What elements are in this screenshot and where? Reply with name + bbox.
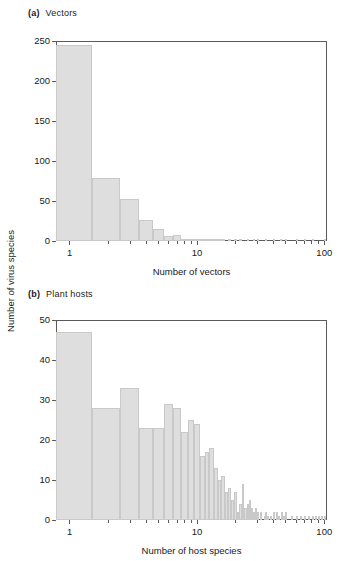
bar	[267, 516, 269, 520]
bar	[280, 239, 282, 241]
x-tick-mark	[158, 520, 159, 523]
x-tick-mark	[108, 241, 109, 244]
x-tick-label: 10	[192, 247, 203, 258]
x-tick-mark	[304, 520, 305, 523]
panel-a-title: (a)Vectors	[28, 8, 77, 18]
bar	[139, 220, 153, 241]
panel-a-x-axis-label: Number of vectors	[56, 266, 327, 277]
x-tick-mark	[235, 520, 236, 523]
x-tick-mark	[273, 520, 274, 523]
x-tick-mark	[197, 241, 198, 245]
x-tick-label: 100	[316, 526, 332, 537]
y-tick-mark	[52, 241, 56, 242]
x-tick-mark	[69, 241, 70, 245]
bar	[300, 516, 302, 520]
x-tick-mark	[296, 241, 297, 244]
y-tick-mark	[52, 41, 56, 42]
bar	[120, 199, 139, 241]
x-tick-mark	[257, 241, 258, 244]
bar	[247, 239, 249, 241]
bar	[270, 516, 272, 520]
y-tick-label: 20	[39, 434, 50, 445]
x-tick-mark	[285, 241, 286, 244]
x-tick-mark	[318, 241, 319, 244]
x-tick-mark	[158, 241, 159, 244]
panel-b-plot-area: 01020304050 110100	[56, 320, 327, 520]
x-tick-mark	[177, 520, 178, 523]
y-tick-label: 0	[45, 235, 50, 246]
panel-a-title-text: Vectors	[46, 8, 77, 18]
y-tick-label: 10	[39, 474, 50, 485]
y-tick-mark	[52, 81, 56, 82]
x-tick-label: 1	[67, 247, 72, 258]
y-tick-mark	[52, 201, 56, 202]
y-tick-label: 40	[39, 354, 50, 365]
x-tick-mark	[108, 520, 109, 523]
x-tick-mark	[318, 520, 319, 523]
y-tick-mark	[52, 480, 56, 481]
y-tick-label: 250	[34, 35, 50, 46]
x-tick-mark	[130, 241, 131, 244]
panel-b-x-axis-label: Number of host species	[56, 545, 327, 556]
bar	[221, 239, 224, 241]
y-tick-mark	[52, 520, 56, 521]
panel-b-tag: (b)	[28, 289, 40, 299]
shared-y-axis-label: Number of virus species	[0, 0, 21, 561]
x-tick-mark	[184, 520, 185, 523]
y-tick-mark	[52, 161, 56, 162]
panel-b-title: (b)Plant hosts	[28, 289, 93, 299]
bar	[285, 512, 287, 520]
y-tick-mark	[52, 360, 56, 361]
x-tick-mark	[235, 241, 236, 244]
x-tick-mark	[184, 241, 185, 244]
bar	[228, 239, 231, 241]
x-tick-mark	[296, 520, 297, 523]
bar	[181, 432, 188, 520]
bar	[139, 428, 153, 520]
y-tick-label: 50	[39, 314, 50, 325]
x-tick-label: 10	[192, 526, 203, 537]
y-tick-mark	[52, 121, 56, 122]
x-tick-mark	[168, 520, 169, 523]
x-tick-mark	[197, 520, 198, 524]
panel-b-bars	[56, 320, 327, 520]
bar	[257, 512, 259, 520]
x-tick-mark	[324, 241, 325, 245]
y-tick-label: 100	[34, 155, 50, 166]
x-tick-mark	[168, 241, 169, 244]
x-tick-mark	[177, 241, 178, 244]
bar	[56, 45, 92, 241]
bar	[56, 332, 92, 520]
x-tick-mark	[273, 241, 274, 244]
x-tick-mark	[324, 520, 325, 524]
y-tick-label: 200	[34, 75, 50, 86]
bar	[239, 239, 242, 241]
y-tick-mark	[52, 320, 56, 321]
bar	[164, 404, 173, 520]
x-tick-mark	[285, 520, 286, 523]
x-tick-mark	[304, 241, 305, 244]
panel-a-tag: (a)	[28, 8, 40, 18]
x-tick-mark	[191, 520, 192, 523]
x-tick-mark	[146, 241, 147, 244]
x-tick-mark	[311, 520, 312, 523]
panel-a-bars	[56, 41, 327, 241]
figure-two-panel-histograms: Number of virus species (a)Vectors 05010…	[0, 0, 348, 561]
y-tick-mark	[52, 400, 56, 401]
bar	[92, 408, 120, 520]
bar	[260, 512, 262, 520]
x-tick-mark	[257, 520, 258, 523]
x-tick-mark	[146, 520, 147, 523]
bar	[173, 408, 181, 520]
y-tick-label: 50	[39, 195, 50, 206]
bar	[265, 239, 267, 241]
bar	[291, 516, 293, 520]
y-tick-label: 0	[45, 514, 50, 525]
shared-y-axis-label-text: Number of virus species	[5, 230, 16, 332]
y-tick-label: 150	[34, 115, 50, 126]
x-tick-mark	[311, 241, 312, 244]
x-tick-mark	[69, 520, 70, 524]
x-tick-label: 1	[67, 526, 72, 537]
bar	[153, 428, 164, 520]
bar	[273, 512, 275, 520]
